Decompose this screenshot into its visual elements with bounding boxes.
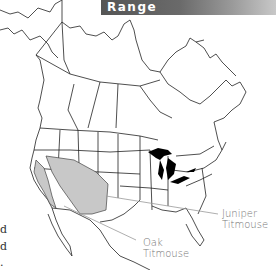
juniper-titmouse-label: Juniper Titmouse [222,208,268,230]
cropped-side-text-2: d [0,240,7,253]
cropped-side-text-3: . [0,256,4,269]
cropped-side-text-1: d [0,223,7,236]
oak-titmouse-label: Oak Titmouse [143,237,189,259]
great-lakes [148,148,196,184]
